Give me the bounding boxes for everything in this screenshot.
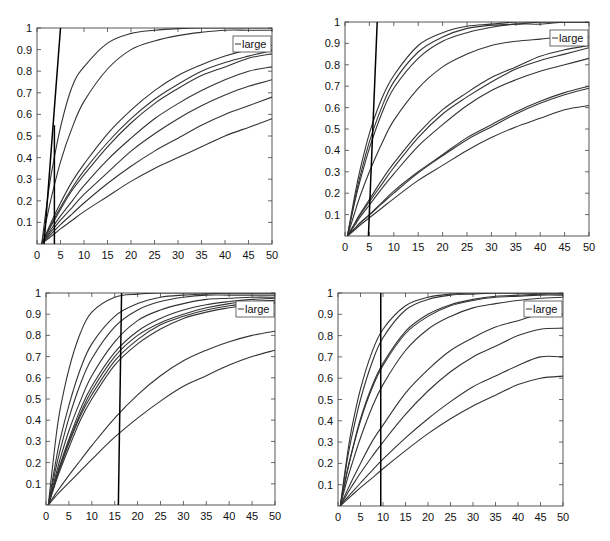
y-tick-label: 0.8 — [17, 65, 32, 77]
legend: large — [236, 301, 274, 317]
y-tick-label: 0.8 — [325, 59, 340, 71]
series-line-curve-6 — [347, 48, 589, 236]
x-tick-label: 10 — [377, 511, 389, 523]
series-line-curve-1 — [42, 28, 272, 244]
x-tick-label: 30 — [172, 249, 184, 261]
x-tick-label: 50 — [269, 510, 281, 522]
y-tick-label: 0.4 — [26, 414, 41, 426]
y-tick-label: 0.2 — [318, 457, 333, 469]
y-tick-label: 0.8 — [26, 329, 41, 341]
y-tick-label: 0.8 — [318, 330, 333, 342]
legend: large — [233, 36, 271, 52]
panel-top-left: 051015202530354045500.10.20.30.40.50.60.… — [17, 22, 278, 261]
series-line-curve-9 — [48, 331, 275, 505]
series-line-curve-2 — [340, 293, 563, 506]
series-line-curve-8 — [42, 97, 272, 244]
series-line-curve-9 — [340, 376, 563, 506]
y-tick-label: 0.2 — [325, 187, 340, 199]
x-tick-label: 5 — [357, 511, 363, 523]
y-tick-label: 0.2 — [17, 195, 32, 207]
series-line-curve-10 — [347, 106, 589, 237]
x-tick-label: 25 — [154, 510, 166, 522]
x-tick-label: 35 — [195, 249, 207, 261]
y-tick-label: 0.9 — [17, 44, 32, 56]
y-tick-label: 0.3 — [325, 166, 340, 178]
y-tick-label: 0.4 — [325, 144, 340, 156]
y-tick-label: 0.5 — [325, 123, 340, 135]
x-tick-label: 15 — [412, 241, 424, 253]
x-tick-label: 20 — [125, 249, 137, 261]
x-tick-label: 20 — [436, 241, 448, 253]
y-tick-label: 0.7 — [26, 351, 41, 363]
series-line-curve-10 — [48, 350, 275, 505]
y-tick-label: 0.1 — [325, 209, 340, 221]
x-tick-label: 5 — [66, 510, 72, 522]
y-tick-label: 0.1 — [17, 216, 32, 228]
y-tick-label: 0.7 — [325, 80, 340, 92]
x-tick-label: 40 — [219, 249, 231, 261]
x-tick-label: 5 — [366, 241, 372, 253]
x-tick-label: 0 — [43, 510, 49, 522]
x-tick-label: 20 — [131, 510, 143, 522]
x-tick-label: 50 — [266, 249, 278, 261]
x-tick-label: 40 — [223, 510, 235, 522]
y-tick-label: 0.1 — [26, 478, 41, 490]
y-tick-label: 0.4 — [17, 152, 32, 164]
y-tick-label: 0.5 — [17, 130, 32, 142]
x-tick-label: 25 — [461, 241, 473, 253]
series-line-curve-7 — [340, 328, 563, 506]
plot-area — [48, 293, 275, 505]
y-tick-label: 0.5 — [318, 394, 333, 406]
plot-area — [42, 28, 272, 244]
legend-label: large — [245, 303, 269, 315]
y-tick-label: 1 — [334, 16, 340, 28]
x-tick-label: 30 — [485, 241, 497, 253]
x-tick-label: 15 — [399, 511, 411, 523]
series-line-curve-7 — [347, 58, 589, 236]
x-tick-label: 10 — [388, 241, 400, 253]
series-line-curve-6 — [48, 300, 275, 505]
y-tick-label: 0.9 — [325, 37, 340, 49]
x-tick-label: 40 — [534, 241, 546, 253]
x-tick-label: 25 — [444, 511, 456, 523]
x-tick-label: 30 — [177, 510, 189, 522]
x-tick-label: 35 — [489, 511, 501, 523]
series-line-curve-5 — [42, 54, 272, 244]
x-tick-label: 45 — [242, 249, 254, 261]
y-tick-label: 0.6 — [325, 102, 340, 114]
panel-top-right: 051015202530354045500.10.20.30.40.50.60.… — [325, 16, 595, 253]
x-tick-label: 45 — [558, 241, 570, 253]
x-tick-label: 45 — [246, 510, 258, 522]
axes-frame — [37, 28, 272, 244]
panel-bottom-right: 051015202530354045500.10.20.30.40.50.60.… — [318, 287, 569, 523]
y-tick-label: 0.9 — [318, 308, 333, 320]
x-tick-label: 30 — [467, 511, 479, 523]
y-tick-label: 0.6 — [318, 372, 333, 384]
y-tick-label: 1 — [26, 22, 32, 34]
x-tick-label: 20 — [422, 511, 434, 523]
y-tick-label: 0.1 — [318, 479, 333, 491]
y-tick-label: 1 — [35, 287, 41, 299]
y-tick-label: 0.5 — [26, 393, 41, 405]
series-line-curve-4 — [42, 51, 272, 244]
y-tick-label: 1 — [327, 287, 333, 299]
x-tick-label: 35 — [510, 241, 522, 253]
panel-bottom-left: 051015202530354045500.10.20.30.40.50.60.… — [26, 287, 281, 522]
y-tick-label: 0.2 — [26, 457, 41, 469]
y-tick-label: 0.3 — [17, 173, 32, 185]
plot-area — [340, 293, 563, 506]
x-tick-label: 35 — [200, 510, 212, 522]
series-line-curve-8 — [340, 356, 563, 506]
y-tick-label: 0.7 — [318, 351, 333, 363]
series-line-curve-7 — [42, 80, 272, 244]
y-tick-label: 0.7 — [17, 87, 32, 99]
legend: large — [524, 301, 562, 317]
legend: large — [550, 30, 588, 46]
series-line-curve-9 — [347, 88, 589, 236]
x-tick-label: 50 — [583, 241, 595, 253]
x-tick-label: 0 — [34, 249, 40, 261]
y-tick-label: 0.6 — [26, 372, 41, 384]
x-tick-label: 10 — [86, 510, 98, 522]
x-tick-label: 0 — [335, 511, 341, 523]
legend-label: large — [559, 32, 583, 44]
